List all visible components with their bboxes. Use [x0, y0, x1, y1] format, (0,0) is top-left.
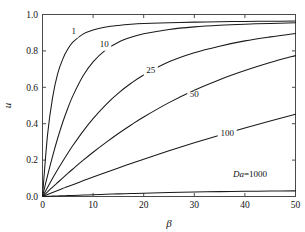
curve-da-100	[43, 114, 296, 196]
line-chart-canvas: 010203040500.00.20.40.60.81.0βu110255010…	[0, 0, 305, 232]
x-tick-label-10: 10	[88, 200, 98, 210]
y-tick-label-1: 1.0	[26, 10, 38, 20]
y-tick-label-0: 0.0	[26, 192, 38, 202]
y-tick-label-0.6: 0.6	[26, 83, 38, 93]
y-tick-label-0.8: 0.8	[26, 46, 38, 56]
curve-label-1: 1	[72, 26, 77, 36]
curve-label-25: 25	[146, 65, 156, 75]
curve-label-100: 100	[220, 128, 234, 138]
x-tick-label-30: 30	[190, 200, 200, 210]
curve-label-10: 10	[100, 39, 110, 49]
y-tick-label-0.4: 0.4	[26, 119, 38, 129]
y-axis-label: u	[1, 102, 13, 108]
chart-figure: 010203040500.00.20.40.60.81.0βu110255010…	[0, 0, 305, 232]
x-axis-label: β	[165, 217, 172, 229]
curve-label-50: 50	[190, 89, 200, 99]
curve-da-1000	[43, 191, 296, 197]
x-tick-label-0: 0	[40, 200, 45, 210]
x-tick-label-40: 40	[240, 200, 250, 210]
x-tick-label-20: 20	[139, 200, 149, 210]
curve-label-da-1000: Da=1000	[232, 169, 268, 179]
y-tick-label-0.2: 0.2	[26, 155, 38, 165]
x-tick-label-50: 50	[291, 200, 301, 210]
